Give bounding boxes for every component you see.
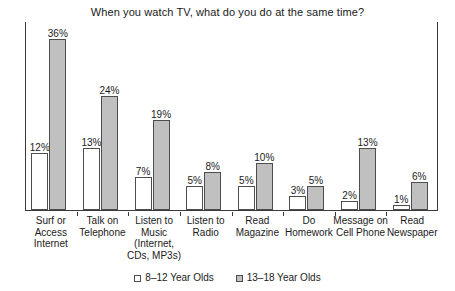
legend-label-13-18: 13–18 Year Olds: [247, 272, 321, 284]
bar-value-label: 3%: [291, 185, 305, 196]
bar[interactable]: 2%: [341, 201, 358, 210]
x-axis-baseline: [25, 210, 438, 211]
legend-swatch-icon-13-18: [236, 275, 243, 282]
bar-value-label: 10%: [254, 152, 274, 163]
bar[interactable]: 36%: [49, 39, 66, 210]
chart-legend: 8–12 Year Olds 13–18 Year Olds: [0, 272, 455, 284]
bar-value-label: 1%: [394, 194, 408, 205]
category-label-line: Read: [380, 215, 444, 227]
bar[interactable]: 1%: [393, 205, 410, 210]
bar-value-label: 36%: [48, 28, 68, 39]
legend-label-8-12: 8–12 Year Olds: [145, 272, 213, 284]
bar[interactable]: 3%: [289, 196, 306, 210]
category-label-line: Internet: [19, 238, 83, 250]
bar-group: 1%6%: [386, 22, 438, 210]
bar[interactable]: 13%: [83, 148, 100, 210]
bar[interactable]: 5%: [307, 186, 324, 210]
bar[interactable]: 24%: [101, 96, 118, 210]
bar-value-label: 2%: [342, 190, 356, 201]
category-label-line: CDs, MP3s): [122, 250, 186, 262]
bar[interactable]: 5%: [238, 186, 255, 210]
bar-group: 2%13%: [335, 22, 387, 210]
bar-value-label: 12%: [30, 142, 50, 153]
bar-group: 12%36%: [25, 22, 77, 210]
legend-swatch-icon-8-12: [134, 275, 141, 282]
bar-group: 5%8%: [180, 22, 232, 210]
bar[interactable]: 19%: [153, 120, 170, 210]
bar-value-label: 24%: [99, 85, 119, 96]
bar-chart: When you watch TV, what do you do at the…: [0, 0, 455, 291]
category-label-line: (Internet,: [122, 238, 186, 250]
bar[interactable]: 13%: [359, 148, 376, 210]
bar-value-label: 5%: [309, 175, 323, 186]
bar-value-label: 7%: [136, 166, 150, 177]
bar-group: 13%24%: [77, 22, 129, 210]
bar-value-label: 13%: [81, 137, 101, 148]
plot-area: 12%36%13%24%7%19%5%8%5%10%3%5%2%13%1%6%: [25, 22, 438, 211]
bar-group: 5%10%: [232, 22, 284, 210]
bar[interactable]: 8%: [204, 172, 221, 210]
bar[interactable]: 6%: [411, 182, 428, 210]
bar-value-label: 5%: [187, 175, 201, 186]
x-axis-category-labels: Surf orAccessInternetTalk onTelephoneLis…: [25, 215, 438, 271]
bar-value-label: 19%: [151, 109, 171, 120]
category-label-line: Newspaper: [380, 227, 444, 239]
bar[interactable]: 12%: [31, 153, 48, 210]
bar-group: 7%19%: [128, 22, 180, 210]
bar[interactable]: 5%: [186, 186, 203, 210]
bar-value-label: 8%: [205, 161, 219, 172]
bar[interactable]: 10%: [256, 163, 273, 210]
legend-item-13-18[interactable]: 13–18 Year Olds: [236, 272, 321, 284]
legend-item-8-12[interactable]: 8–12 Year Olds: [134, 272, 213, 284]
bar-value-label: 5%: [239, 175, 253, 186]
bar-value-label: 6%: [412, 171, 426, 182]
x-axis-category-label: ReadNewspaper: [380, 215, 444, 238]
chart-title: When you watch TV, what do you do at the…: [0, 6, 455, 19]
bar-group: 3%5%: [283, 22, 335, 210]
bar-value-label: 13%: [358, 137, 378, 148]
bar[interactable]: 7%: [135, 177, 152, 210]
